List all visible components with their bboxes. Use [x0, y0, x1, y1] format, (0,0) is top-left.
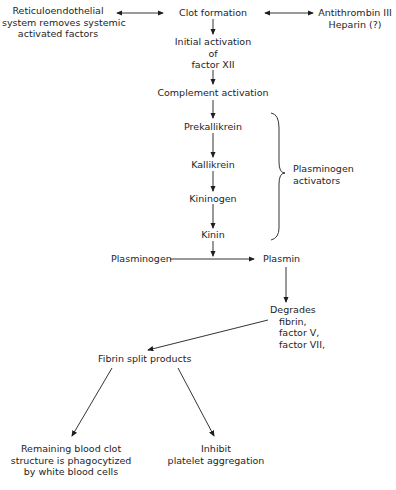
node-line: fibrin, [270, 316, 325, 328]
node-line: activators [293, 175, 354, 187]
node-line: Degrades [270, 304, 325, 316]
node-reticuloendothelial: Reticuloendothelial system removes syste… [2, 5, 114, 40]
edge-fsp-inhibit [178, 368, 214, 436]
node-kallikrein: Kallikrein [163, 159, 263, 171]
node-line: factor V, [270, 327, 325, 339]
node-inhibit-platelet: Inhibit platelet aggregation [166, 443, 266, 466]
node-antithrombin-heparin: Antithrombin III Heparin (?) [314, 7, 396, 30]
node-line: Heparin (?) [314, 19, 396, 31]
node-line: structure is phagocytized [8, 455, 134, 467]
node-line: Plasmin [263, 253, 300, 265]
node-line: Clot formation [163, 7, 263, 19]
node-kininogen: Kininogen [163, 193, 263, 205]
node-plasminogen-activators: Plasminogen activators [293, 163, 354, 186]
node-line: factor VII, [270, 339, 325, 351]
node-complement-activation: Complement activation [153, 87, 273, 99]
diagram-edges [0, 0, 396, 490]
node-line: platelet aggregation [166, 455, 266, 467]
node-plasmin: Plasmin [263, 253, 300, 265]
node-prekallikrein: Prekallikrein [163, 121, 263, 133]
node-degrades: Degrades fibrin, factor V, factor VII, [270, 304, 325, 350]
node-clot-formation: Clot formation [163, 7, 263, 19]
node-line: Kinin [163, 229, 263, 241]
node-line: Kallikrein [163, 159, 263, 171]
node-line: Fibrin split products [98, 353, 192, 365]
node-line: Plasminogen [111, 253, 172, 265]
node-plasminogen: Plasminogen [111, 253, 172, 265]
node-line: Antithrombin III [314, 7, 396, 19]
node-line: Initial activation [163, 36, 263, 48]
node-line: Inhibit [166, 443, 266, 455]
node-line: Reticuloendothelial [2, 5, 114, 17]
node-line: Prekallikrein [163, 121, 263, 133]
node-line: system removes systemic [2, 17, 114, 29]
node-line: Complement activation [153, 87, 273, 99]
node-line: Kininogen [163, 193, 263, 205]
node-line: Remaining blood clot [8, 443, 134, 455]
activators-brace [271, 113, 285, 240]
node-line: factor XII [163, 59, 263, 71]
node-line: by white blood cells [8, 466, 134, 478]
node-line: Plasminogen [293, 163, 354, 175]
node-initial-activation: Initial activation of factor XII [163, 36, 263, 71]
node-kinin: Kinin [163, 229, 263, 241]
node-line: of [163, 48, 263, 60]
node-remaining-blood-clot: Remaining blood clot structure is phagoc… [8, 443, 134, 478]
edge-degrades-fsp [148, 320, 268, 350]
node-line: activated factors [2, 28, 114, 40]
node-fibrin-split-products: Fibrin split products [98, 353, 192, 365]
edge-fsp-remaining [72, 368, 112, 436]
